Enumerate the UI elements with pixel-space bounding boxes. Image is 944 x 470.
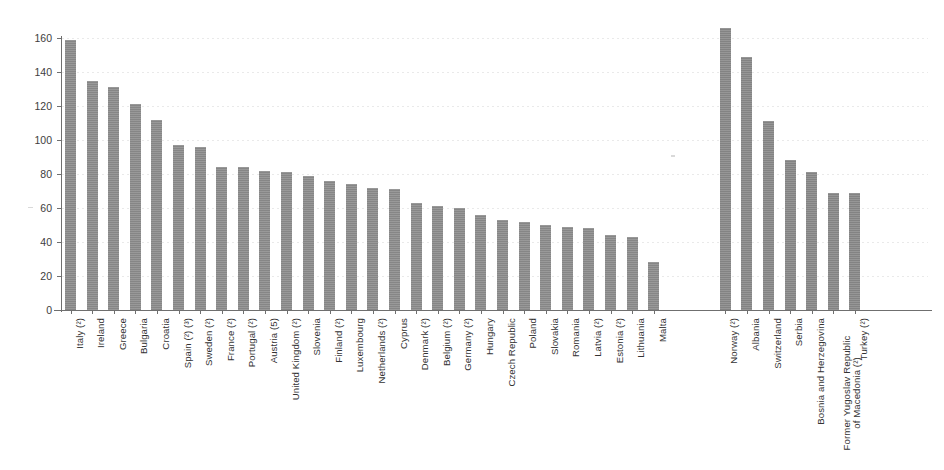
x-tick-label: Sweden (²) [204,318,214,366]
bar [583,228,594,310]
x-tick-mark [438,310,439,314]
x-tick-mark [114,310,115,314]
x-tick-mark [725,310,726,314]
bar-chart: 020406080100120140160 Italy (²)IrelandGr… [0,0,944,470]
y-tick-label-40: 40 [16,237,52,247]
bar [346,184,357,310]
x-tick-label: Greece [118,318,128,350]
x-tick-label: Romania [571,318,581,357]
x-tick-mark [157,310,158,314]
x-tick-label: Denmark (²) [420,318,430,370]
x-tick-label: Estonia (²) [615,318,625,363]
y-tick-label-60: 60 [16,203,52,213]
x-tick-mark [747,310,748,314]
y-tick-label-0: 0 [16,305,52,315]
bar [411,203,422,310]
x-tick-mark [243,310,244,314]
bar [216,167,227,310]
bar [130,104,141,310]
x-tick-mark [222,310,223,314]
x-tick-label: Belgium (²) [442,318,452,366]
y-axis-tick-labels: 020406080100120140160 [0,0,56,470]
x-tick-label: Bosnia and Herzegovina [816,318,826,425]
y-tick-label-160: 160 [16,33,52,43]
x-tick-label: Bulgaria [139,318,149,354]
bar [648,262,659,310]
x-tick-mark [459,310,460,314]
x-tick-label: Malta [658,318,668,342]
x-tick-label: Slovakia [550,318,560,355]
x-tick-mark [611,310,612,314]
x-tick-mark [524,310,525,314]
x-tick-label: Ireland [96,318,106,348]
x-tick-mark [769,310,770,314]
bar [303,176,314,310]
y-tick-label-140: 140 [16,67,52,77]
x-tick-mark [179,310,180,314]
x-tick-mark [567,310,568,314]
x-tick-label: Netherlands (²) [377,318,387,383]
bar [562,227,573,310]
bar [87,81,98,311]
x-tick-label: Spain (²) (³) [183,318,193,368]
y-tick-mark-0 [57,310,62,311]
bar [763,121,774,310]
bar [108,87,119,310]
bar [259,171,270,310]
bar [238,167,249,310]
bar [367,188,378,310]
x-tick-label: United Kingdom (²) [291,318,301,400]
x-tick-mark [546,310,547,314]
x-tick-mark [287,310,288,314]
x-tick-label: Cyprus [399,318,409,349]
x-tick-label: Croatia [161,318,171,350]
x-tick-mark [135,310,136,314]
bar [389,189,400,310]
x-tick-mark [330,310,331,314]
y-tick-label-20: 20 [16,271,52,281]
x-tick-label: Slovenia [312,318,322,356]
bar [497,220,508,310]
bar [173,145,184,310]
x-tick-label: Czech Republic [507,318,517,387]
scan-speck [671,155,675,157]
x-tick-label: Lithuania [636,318,646,358]
bar [785,160,796,310]
y-tick-label-120: 120 [16,101,52,111]
x-tick-label: Luxembourg [355,318,365,372]
x-tick-label: Latvia (²) [593,318,603,357]
x-tick-mark [71,310,72,314]
x-tick-mark [654,310,655,314]
bars-container [62,38,928,310]
x-tick-mark [503,310,504,314]
bar [151,120,162,310]
bar [454,208,465,310]
bar [195,147,206,310]
x-tick-mark [481,310,482,314]
x-tick-label: Portugal (²) [247,318,257,367]
bar [324,181,335,310]
x-tick-label: Poland [528,318,538,348]
x-tick-mark [812,310,813,314]
x-tick-mark [833,310,834,314]
bar [432,206,443,310]
scan-speck [28,207,33,208]
bar [828,193,839,310]
bar [281,172,292,310]
y-tick-label-80: 80 [16,169,52,179]
x-tick-mark [200,310,201,314]
x-tick-mark [308,310,309,314]
bar [540,225,551,310]
bar [741,57,752,310]
x-tick-label: Turkey (²) [859,318,869,360]
bar [519,222,530,310]
x-tick-mark [632,310,633,314]
x-tick-mark [395,310,396,314]
x-tick-label: Finland (²) [334,318,344,363]
x-tick-mark [265,310,266,314]
bar [720,28,731,310]
y-tick-label-100: 100 [16,135,52,145]
x-tick-mark [373,310,374,314]
x-tick-mark [790,310,791,314]
bar [849,193,860,310]
